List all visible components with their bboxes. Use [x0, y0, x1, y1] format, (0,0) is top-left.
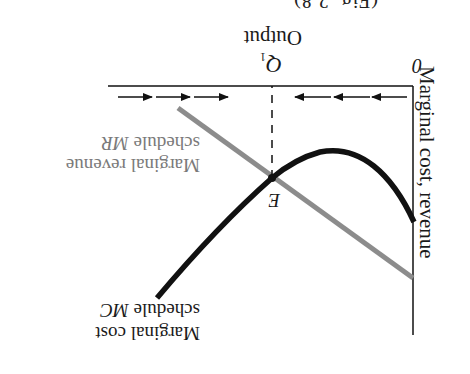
diagram-svg	[0, 0, 470, 374]
q1-letter: Q	[266, 53, 282, 78]
mc-label: Marginal cost schedule MC	[95, 299, 200, 345]
mc-label-line1: Marginal cost	[95, 322, 200, 345]
equilibrium-label: E	[268, 191, 280, 210]
mr-label-line1: Marginal revenue	[66, 154, 200, 176]
y-axis-label: Marginal cost, revenue	[414, 66, 439, 259]
equilibrium-point	[268, 174, 276, 182]
mr-curve	[178, 108, 413, 278]
x-axis-label: Output	[244, 27, 302, 48]
q1-subscript: 1	[260, 50, 266, 64]
figure-caption-clipped: (Fig. 2.8)	[293, 0, 378, 12]
mr-label: Marginal revenue schedule MR	[66, 132, 200, 176]
mr-label-line2: schedule MR	[66, 132, 200, 154]
rotated-figure: 0 Q1 Output E Marginal cost, revenue Mar…	[0, 0, 470, 374]
mc-label-line2: schedule MC	[95, 299, 200, 322]
q1-label: Q1	[260, 51, 282, 76]
